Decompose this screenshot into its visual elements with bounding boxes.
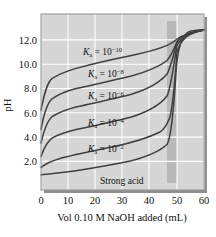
x-tick-40: 40	[144, 195, 155, 206]
y-tick-8: 8.0	[24, 83, 37, 94]
y-axis-tick-labels: 12.0 10.0 8.0 6.0 4.0 2.0	[19, 35, 37, 168]
x-tick-0: 0	[38, 195, 43, 206]
x-tick-60: 60	[199, 195, 210, 206]
ka-1e-6-exponent: −6	[117, 90, 125, 97]
x-axis-title: Vol 0.10 M NaOH added (mL)	[57, 212, 187, 224]
x-tick-10: 10	[63, 195, 74, 206]
ka-1e-6-equals: = 10	[97, 91, 117, 101]
ka-1e-10-exponent: −10	[112, 46, 122, 53]
x-axis-tick-labels: 0 10 20 30 40 50 60	[38, 195, 209, 206]
titration-curves-figure: Ka = 10−10 Ka = 10−8 Ka = 10−6 Ka = 10−4…	[0, 0, 216, 237]
ka-1e-2-equals: = 10	[97, 144, 117, 154]
y-tick-4: 4.0	[24, 132, 37, 143]
x-axis-title-post: NaOH added (mL)	[105, 212, 187, 224]
ka-1e-4-equals: = 10	[97, 118, 117, 128]
ka-1e-10-equals: = 10	[92, 47, 112, 57]
y-tick-2: 2.0	[24, 156, 37, 167]
ka-1e-4-exponent: −4	[117, 117, 125, 124]
ka-1e-2-exponent: −2	[117, 143, 124, 150]
y-axis-title: pH	[2, 98, 13, 111]
y-tick-12: 12.0	[19, 35, 37, 46]
x-tick-20: 20	[90, 195, 101, 206]
x-tick-50: 50	[172, 195, 183, 206]
titration-chart: Ka = 10−10 Ka = 10−8 Ka = 10−6 Ka = 10−4…	[0, 0, 216, 237]
x-tick-30: 30	[117, 195, 128, 206]
strong-acid-label: Strong acid	[100, 176, 144, 186]
ka-1e-8-exponent: −8	[117, 68, 124, 75]
ka-1e-8-equals: = 10	[97, 69, 117, 79]
y-tick-6: 6.0	[24, 108, 37, 119]
x-axis-title-pre: Vol 0.10	[57, 212, 95, 223]
y-tick-10: 10.0	[19, 59, 37, 70]
